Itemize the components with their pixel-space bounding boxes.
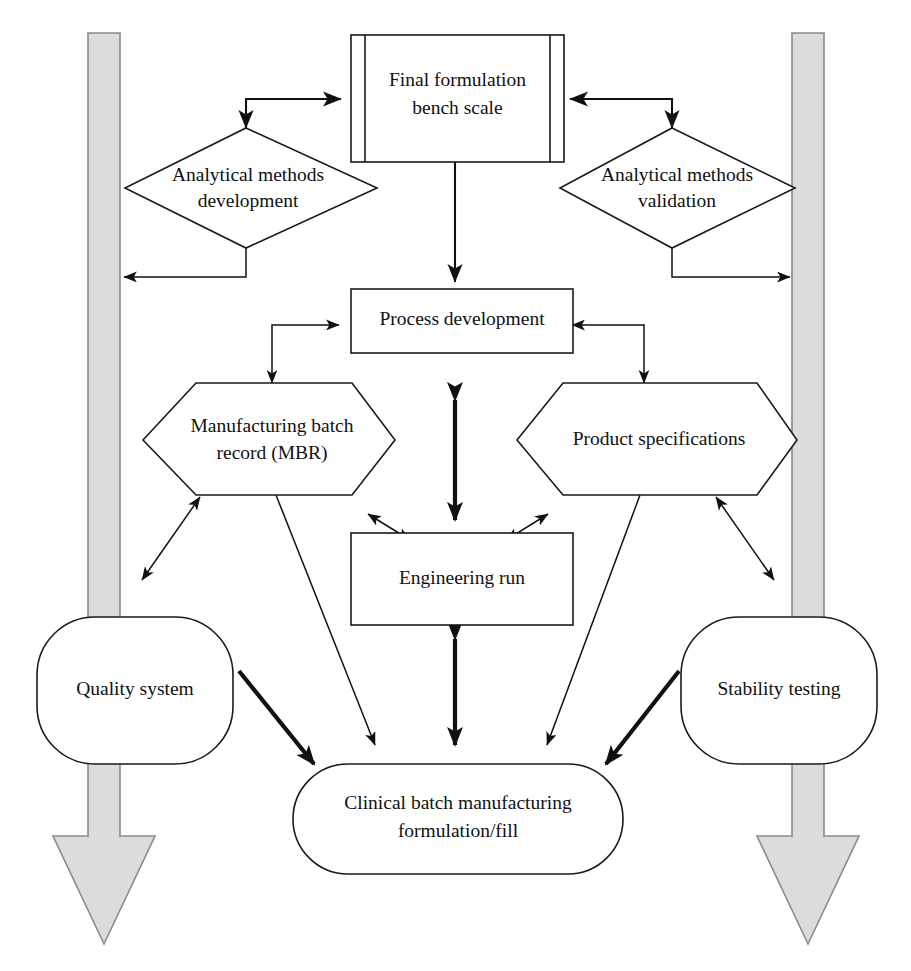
node-mbr-label-line1: Manufacturing batch	[191, 415, 354, 436]
node-stability-testing[interactable]: Stability testing	[681, 617, 877, 764]
node-product-specifications[interactable]: Product specifications	[517, 383, 797, 495]
node-process-development[interactable]: Process development	[351, 289, 573, 353]
node-analytical-methods-development-label-line2: development	[198, 190, 299, 211]
node-engineering-run-label: Engineering run	[399, 567, 525, 588]
node-final-formulation-label-line1: Final formulation	[389, 69, 526, 90]
node-analytical-methods-development[interactable]: Analytical methods development	[125, 128, 377, 248]
node-analytical-methods-validation-label-line2: validation	[638, 190, 716, 211]
connector-process-development-to-mbr	[272, 325, 339, 383]
node-analytical-methods-validation-label-line1: Analytical methods	[601, 164, 753, 185]
flowchart-svg: Final formulation bench scale Analytical…	[0, 0, 911, 971]
left-process-band	[53, 33, 155, 944]
right-process-band	[757, 33, 859, 944]
flowchart-canvas: Final formulation bench scale Analytical…	[0, 0, 911, 971]
connector-product-specifications-to-stability-testing	[716, 497, 774, 580]
connector-mbr-to-quality-system	[142, 497, 200, 580]
node-mbr-label-line2: record (MBR)	[216, 442, 327, 464]
node-clinical-batch[interactable]: Clinical batch manufacturing formulation…	[293, 764, 623, 874]
node-mbr[interactable]: Manufacturing batch record (MBR)	[143, 383, 395, 495]
connector-stability-testing-to-clinical-batch	[606, 671, 679, 764]
node-final-formulation[interactable]: Final formulation bench scale	[351, 35, 564, 162]
node-clinical-batch-label-line1: Clinical batch manufacturing	[344, 792, 572, 813]
node-product-specifications-label: Product specifications	[573, 428, 746, 449]
node-analytical-methods-validation[interactable]: Analytical methods validation	[560, 128, 795, 248]
node-process-development-label: Process development	[379, 308, 545, 329]
connector-quality-system-to-clinical-batch	[239, 671, 314, 764]
node-quality-system[interactable]: Quality system	[37, 617, 233, 764]
connector-analytical-development-to-final-formulation	[246, 99, 341, 128]
node-analytical-methods-development-label-line1: Analytical methods	[172, 164, 324, 185]
node-engineering-run[interactable]: Engineering run	[351, 533, 573, 625]
connector-process-development-to-product-specifications	[572, 325, 644, 383]
connector-analytical-validation-to-right-band	[672, 248, 790, 277]
connector-analytical-development-to-left-band	[124, 248, 246, 277]
node-quality-system-label: Quality system	[76, 678, 194, 699]
connector-analytical-validation-to-final-formulation	[570, 99, 672, 128]
node-stability-testing-label: Stability testing	[718, 678, 841, 699]
node-clinical-batch-label-line2: formulation/fill	[398, 820, 519, 841]
node-final-formulation-label-line2: bench scale	[412, 97, 502, 118]
